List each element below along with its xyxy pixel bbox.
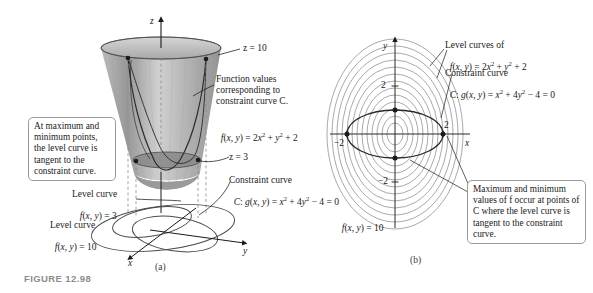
panel-b-y-axis-label: y [383, 41, 387, 52]
tangency-point [345, 132, 350, 137]
tangency-dot-3d [126, 56, 131, 61]
tangency-point [441, 132, 446, 137]
panel-a-f-equation: f(x, y) = 2x2 + y2 + 2 [216, 122, 298, 144]
panel-b-ytick-negative: −2 [378, 176, 388, 187]
panel-a-level-curve-10-title: Level curve [50, 220, 95, 231]
panel-a-constraint-equation: C: g(x, y) = x2 + 4y2 − 4 = 0 [229, 186, 339, 208]
panel-a-z10-label: z = 10 [243, 43, 267, 54]
panel-a-level-curve-3-title: Level curve [72, 189, 117, 200]
panel-b-tag: (b) [410, 255, 421, 265]
panel-a-callout: At maximum and minimum points, the level… [28, 117, 116, 181]
panel-b-xtick-negative: −2 [334, 138, 344, 149]
panel-b-ytick-positive: 2 [381, 80, 386, 91]
panel-b-constraint-equation: C: g(x, y) = x2 + 4y2 − 4 = 0 [445, 79, 555, 101]
panel-b-callout: Maximum and minimum values of f occur at… [467, 180, 586, 244]
panel-b-f10-label: f(x, y) = 10 [337, 212, 384, 234]
tangency-point [393, 156, 398, 161]
panel-a-z3-label: z = 3 [229, 152, 248, 163]
level-curve-3-3d [110, 201, 194, 242]
panel-b-xtick-positive: 2 [444, 120, 449, 131]
figure-caption: FIGURE 12.98 [24, 273, 91, 284]
panel-a-z-axis-label: z [150, 16, 154, 27]
panel-a-y-axis-label: y [243, 246, 247, 257]
panel-a-level-curve-3-equation: f(x, y) = 3 [75, 200, 117, 222]
panel-b-x-axis-label: x [465, 138, 469, 149]
panel-a-x-axis-label: x [128, 258, 132, 269]
panel-b-constraint-title: Constraint curve [445, 68, 508, 79]
panel-b-level-curves-title: Level curves of [445, 40, 504, 51]
tangency-point [393, 108, 398, 113]
tangency-dot-3d [196, 158, 201, 163]
panel-a-tag: (a) [155, 262, 166, 272]
constraint-ellipse-3d [130, 211, 220, 257]
panel-a-function-values-annotation: Function values corresponding to constra… [216, 74, 312, 107]
tangency-dot-3d [134, 159, 139, 164]
tangency-dot-3d [204, 57, 209, 62]
panel-a-constraint-title: Constraint curve [229, 175, 292, 186]
panel-a-level-curve-10-equation: f(x, y) = 10 [50, 231, 97, 253]
